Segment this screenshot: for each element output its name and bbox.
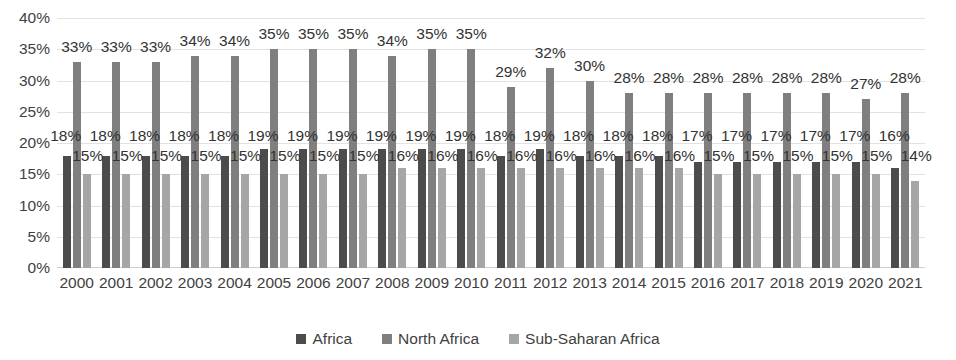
bar (507, 87, 515, 268)
bar (596, 168, 604, 268)
bar (339, 149, 347, 268)
data-label: 35% (337, 26, 368, 42)
y-axis-tick-label: 25% (4, 104, 50, 120)
data-label: 33% (101, 39, 132, 55)
data-label: 18% (169, 128, 200, 144)
bar (201, 174, 209, 268)
data-label: 18% (603, 128, 634, 144)
grouped-bar-chart: 0%5%10%15%20%25%30%35%40% 33%18%15%33%18… (0, 0, 956, 360)
bar (497, 156, 505, 269)
data-label: 18% (563, 128, 594, 144)
y-axis-tick-label: 10% (4, 198, 50, 214)
x-axis-tick-label: 2001 (99, 274, 133, 292)
bar (586, 81, 594, 269)
data-label: 19% (287, 128, 318, 144)
bar (241, 174, 249, 268)
legend-item[interactable]: Africa (296, 330, 352, 348)
bar (181, 156, 189, 269)
data-label: 19% (326, 128, 357, 144)
bar (753, 174, 761, 268)
data-label: 32% (535, 45, 566, 61)
data-label: 17% (681, 128, 712, 144)
data-label: 28% (771, 70, 802, 86)
bar (162, 174, 170, 268)
x-axis-tick-label: 2016 (691, 274, 725, 292)
bar (438, 168, 446, 268)
bar (152, 62, 160, 268)
bar (378, 149, 386, 268)
data-label: 17% (800, 128, 831, 144)
y-axis-tick-label: 30% (4, 73, 50, 89)
bar (546, 68, 554, 268)
x-axis-tick-label: 2010 (454, 274, 488, 292)
x-axis-tick-label: 2019 (809, 274, 843, 292)
x-axis-tick-label: 2000 (59, 274, 93, 292)
bar (299, 149, 307, 268)
data-label: 28% (890, 70, 921, 86)
bar (901, 93, 909, 268)
data-label: 15% (230, 148, 261, 164)
data-label: 14% (901, 148, 932, 164)
data-label: 15% (782, 148, 813, 164)
x-axis-tick-label: 2013 (572, 274, 606, 292)
bar (83, 174, 91, 268)
bar (872, 174, 880, 268)
bar (457, 149, 465, 268)
x-axis-tick-label: 2011 (494, 274, 527, 292)
bar (743, 93, 751, 268)
data-label: 18% (642, 128, 673, 144)
data-label: 35% (298, 26, 329, 42)
legend-item[interactable]: Sub-Saharan Africa (509, 330, 659, 348)
bar (280, 174, 288, 268)
legend-swatch-icon (509, 334, 519, 344)
bar (260, 149, 268, 268)
data-label: 29% (495, 64, 526, 80)
data-label: 30% (574, 58, 605, 74)
y-axis-tick-label: 40% (4, 10, 50, 26)
data-label: 15% (348, 148, 379, 164)
data-label: 35% (416, 26, 447, 42)
bar (122, 174, 130, 268)
data-label: 34% (377, 33, 408, 49)
y-axis-tick-label: 0% (4, 260, 50, 276)
data-label: 15% (822, 148, 853, 164)
data-label: 19% (524, 128, 555, 144)
data-label: 34% (180, 33, 211, 49)
x-axis-tick-label: 2005 (257, 274, 291, 292)
bar (418, 149, 426, 268)
data-label: 16% (388, 148, 419, 164)
data-label: 16% (664, 148, 695, 164)
data-label: 15% (112, 148, 143, 164)
data-label: 15% (191, 148, 222, 164)
data-label: 15% (861, 148, 892, 164)
bar (822, 93, 830, 268)
data-label: 28% (811, 70, 842, 86)
data-label: 15% (269, 148, 300, 164)
legend-item[interactable]: North Africa (382, 330, 479, 348)
bar (142, 156, 150, 269)
bar (536, 149, 544, 268)
y-axis-tick-label: 15% (4, 167, 50, 183)
data-label: 17% (721, 128, 752, 144)
bar (359, 174, 367, 268)
bar (812, 162, 820, 268)
data-label: 18% (129, 128, 160, 144)
bar (477, 168, 485, 268)
data-label: 16% (506, 148, 537, 164)
data-label: 17% (839, 128, 870, 144)
legend-swatch-icon (382, 334, 392, 344)
bar (655, 156, 663, 269)
data-label: 28% (732, 70, 763, 86)
data-label: 33% (140, 39, 171, 55)
legend-label: North Africa (398, 330, 479, 348)
bar (783, 93, 791, 268)
data-label: 18% (90, 128, 121, 144)
bar (576, 156, 584, 269)
bar (911, 181, 919, 269)
data-label: 16% (467, 148, 498, 164)
bar (73, 62, 81, 268)
x-axis-tick-label: 2002 (138, 274, 172, 292)
y-axis-tick-label: 35% (4, 42, 50, 58)
bar (665, 93, 673, 268)
bar (832, 174, 840, 268)
